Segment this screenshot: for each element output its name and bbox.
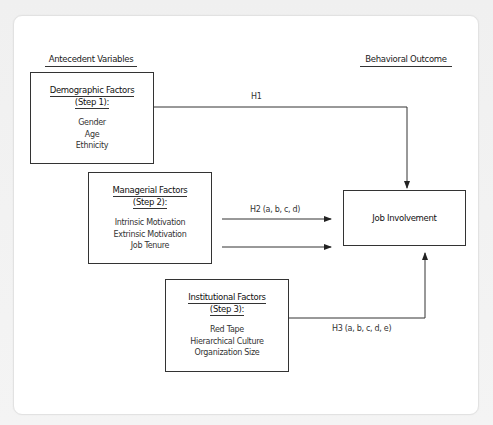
- factor-organization-size: Organization Size: [166, 347, 288, 359]
- institutional-factors-box: Institutional Factors (Step 3): Red Tape…: [165, 279, 289, 372]
- antecedent-variables-heading: Antecedent Variables: [45, 54, 137, 64]
- heading-underline: [45, 66, 137, 67]
- demographic-factors-title: Demographic Factors: [50, 85, 135, 97]
- factor-age: Age: [31, 129, 153, 141]
- factor-intrinsic-motivation: Intrinsic Motivation: [89, 217, 211, 229]
- step-2-label: (Step 2):: [133, 197, 167, 209]
- job-involvement-box: Job Involvement: [343, 190, 466, 246]
- behavioral-outcome-text: Behavioral Outcome: [365, 54, 446, 64]
- h2-label: H2 (a, b, c, d): [250, 205, 300, 214]
- box-title: Managerial Factors: [109, 185, 192, 197]
- demographic-factors-box: Demographic Factors (Step 1): Gender Age…: [30, 72, 154, 164]
- page-background: Antecedent Variables Behavioral Outcome …: [0, 0, 493, 425]
- factor-extrinsic-motivation: Extrinsic Motivation: [89, 229, 211, 241]
- heading-underline: [360, 66, 452, 67]
- step-3-label: (Step 3):: [210, 304, 244, 316]
- managerial-factors-title: Managerial Factors: [113, 185, 188, 197]
- job-involvement-label: Job Involvement: [372, 213, 436, 223]
- factor-red-tape: Red Tape: [166, 324, 288, 336]
- factor-hierarchical-culture: Hierarchical Culture: [166, 336, 288, 348]
- step-1-label: (Step 1):: [75, 97, 109, 109]
- behavioral-outcome-heading: Behavioral Outcome: [360, 54, 452, 64]
- factor-job-tenure: Job Tenure: [89, 240, 211, 252]
- managerial-factors-box: Managerial Factors (Step 2): Intrinsic M…: [88, 172, 212, 264]
- box-title: Institutional Factors: [184, 292, 269, 304]
- managerial-factors-list: Intrinsic Motivation Extrinsic Motivatio…: [89, 217, 211, 252]
- demographic-factors-list: Gender Age Ethnicity: [31, 117, 153, 152]
- h3-label: H3 (a, b, c, d, e): [332, 324, 391, 333]
- factor-ethnicity: Ethnicity: [31, 140, 153, 152]
- box-title: Demographic Factors: [46, 85, 139, 97]
- antecedent-variables-text: Antecedent Variables: [49, 54, 134, 64]
- institutional-factors-list: Red Tape Hierarchical Culture Organizati…: [166, 324, 288, 359]
- factor-gender: Gender: [31, 117, 153, 129]
- h1-label: H1: [251, 92, 262, 101]
- institutional-factors-title: Institutional Factors: [188, 292, 265, 304]
